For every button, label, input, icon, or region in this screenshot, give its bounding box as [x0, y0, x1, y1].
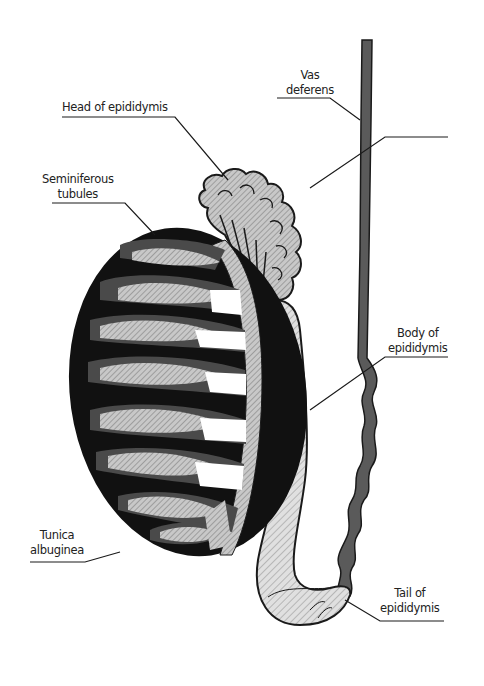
label-line: Tail of: [380, 586, 440, 601]
label-tail-of-epididymis: Tail of epididymis: [380, 586, 440, 616]
label-line: Seminiferous: [42, 172, 114, 187]
label-line: Body of: [388, 326, 448, 341]
label-line: deferens: [286, 83, 334, 98]
label-line: epididymis: [380, 601, 440, 616]
label-body-of-epididymis: Body of epididymis: [388, 326, 448, 356]
label-tunica-albuginea: Tunica albuginea: [30, 528, 84, 558]
label-line: Tunica: [30, 528, 84, 543]
label-vas-deferens: Vas deferens: [286, 68, 334, 98]
label-line: Head of epididymis: [62, 100, 168, 115]
label-seminiferous-tubules: Seminiferous tubules: [42, 172, 114, 202]
vas-deferens: [338, 40, 377, 596]
label-line: tubules: [42, 187, 114, 202]
label-line: Vas: [286, 68, 334, 83]
label-head-of-epididymis: Head of epididymis: [62, 100, 168, 115]
label-line: albuginea: [30, 543, 84, 558]
label-line: epididymis: [388, 341, 448, 356]
